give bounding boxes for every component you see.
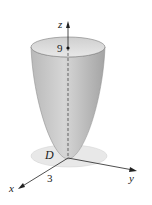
paraboloid-diagram: z 9 D 3 x y <box>0 0 152 205</box>
y-axis-label: y <box>128 172 134 184</box>
x-axis-label: x <box>8 182 14 194</box>
x-axis-arrow-icon <box>18 183 25 189</box>
height-point <box>66 46 69 49</box>
region-label: D <box>44 148 54 162</box>
z-axis-label: z <box>57 18 63 30</box>
height-label: 9 <box>57 42 63 54</box>
radius-label: 3 <box>47 172 53 184</box>
z-axis-arrow-icon <box>66 21 70 28</box>
